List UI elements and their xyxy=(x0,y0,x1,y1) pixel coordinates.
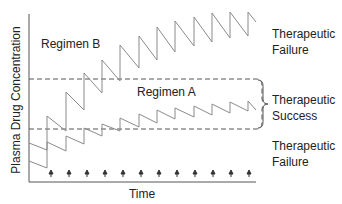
dose-arrow-icon xyxy=(193,170,197,177)
regimen-a-curve xyxy=(29,101,256,168)
dose-arrow-icon xyxy=(157,170,161,177)
dose-arrows xyxy=(49,170,251,177)
dose-arrow-icon xyxy=(139,170,143,177)
bottom-region-label-line1: Therapeutic xyxy=(272,139,335,153)
top-region-label-line2: Failure xyxy=(272,43,309,57)
middle-region-label-line2: Success xyxy=(272,109,317,123)
dose-arrow-icon xyxy=(67,170,71,177)
pharmacokinetics-diagram: Plasma Drug Concentration Time Regimen B… xyxy=(0,0,342,204)
top-region-label-line1: Therapeutic xyxy=(272,27,335,41)
middle-region-label-line1: Therapeutic xyxy=(272,93,335,107)
dose-arrow-icon xyxy=(229,170,233,177)
dose-arrow-icon xyxy=(175,170,179,177)
x-axis-label: Time xyxy=(129,187,156,201)
regimen-a-label: Regimen A xyxy=(137,85,196,99)
dose-arrow-icon xyxy=(247,170,251,177)
success-bracket xyxy=(258,80,268,128)
dose-arrow-icon xyxy=(85,170,89,177)
bottom-region-label-line2: Failure xyxy=(272,155,309,169)
dose-arrow-icon xyxy=(121,170,125,177)
dose-arrow-icon xyxy=(211,170,215,177)
regimen-b-label: Regimen B xyxy=(41,37,100,51)
dose-arrow-icon xyxy=(49,170,53,177)
dose-arrow-icon xyxy=(103,170,107,177)
y-axis-label: Plasma Drug Concentration xyxy=(9,26,23,173)
